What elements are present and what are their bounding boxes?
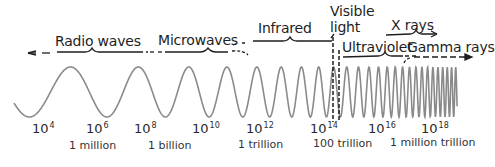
band-label-visible-line1: Visible [330,4,374,18]
word-100-trillion: 100 trillion [313,138,372,149]
band-label-visible-line2: light [330,20,360,34]
band-label-ultraviolet: Ultraviolet [342,40,413,54]
word-1-billion: 1 billion [148,140,191,151]
tick-10-14: 1014 [310,122,338,137]
word-1-million: 1 million [69,140,116,151]
word-1-million-trillion: 1 million trillion [390,137,475,148]
tick-10-18: 1018 [421,122,449,137]
band-label-x-rays: X rays [391,18,434,32]
tick-10-6: 106 [86,122,109,137]
tick-10-10: 1010 [192,122,220,137]
band-label-infrared: Infrared [258,21,312,35]
word-1-trillion: 1 trillion [238,139,283,150]
tick-10-12: 1012 [246,122,274,137]
tick-10-4: 104 [32,122,55,137]
band-label-gamma-rays: Gamma rays [407,40,495,54]
band-label-microwaves: Microwaves [158,33,238,47]
wave-curve [14,67,457,117]
tick-10-16: 1016 [368,122,396,137]
band-label-radio-waves: Radio waves [55,34,141,48]
tick-10-8: 108 [134,122,157,137]
